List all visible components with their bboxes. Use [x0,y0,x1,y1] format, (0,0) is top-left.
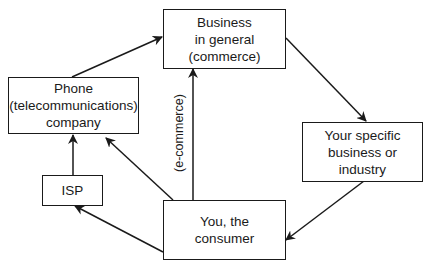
node-business-in-general: Business in general (commerce) [163,9,286,69]
node-your-specific-business: Your specific business or industry [302,122,423,182]
node-isp: ISP [42,175,103,206]
node-label: Phone (telecommunications) company [9,80,137,131]
node-label: Business in general (commerce) [188,14,260,65]
node-phone-company: Phone (telecommunications) company [8,77,139,134]
edge-label-e-commerce: (e-commerce) [172,93,186,173]
node-label: ISP [62,182,84,199]
arrow-phone-to-business [72,37,162,77]
arrow-business-to-specific [286,38,366,121]
arrow-consumer-to-isp [75,206,163,252]
node-label: You, the consumer [195,213,254,247]
node-label: Your specific business or industry [324,127,400,178]
node-consumer: You, the consumer [163,200,286,260]
arrow-consumer-to-phone [106,138,173,200]
arrow-specific-to-consumer [286,181,364,240]
